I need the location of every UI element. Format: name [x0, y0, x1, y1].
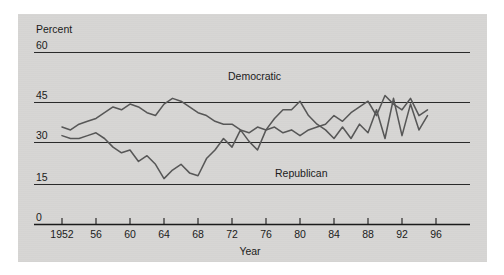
y-tick-label-45: 45 [36, 89, 48, 101]
x-tick-label-92: 92 [396, 228, 408, 240]
y-tick-label-0: 0 [36, 211, 42, 223]
y-tick-labels: 60 45 30 15 0 [36, 39, 48, 223]
x-tick-label-68: 68 [192, 228, 204, 240]
x-tick-label-84: 84 [328, 228, 340, 240]
y-axis-unit-label: Percent [36, 23, 72, 35]
x-axis-title: Year [239, 245, 261, 257]
x-tick-label-80: 80 [294, 228, 306, 240]
x-tick-label-56: 56 [90, 228, 102, 240]
y-tick-label-15: 15 [36, 171, 48, 183]
x-tick-label-1952: 1952 [50, 228, 74, 240]
x-tick-label-64: 64 [158, 228, 170, 240]
y-tick-label-60: 60 [36, 39, 48, 51]
x-tick-label-96: 96 [430, 228, 442, 240]
series-annotation-democratic: Democratic [228, 70, 281, 82]
y-tick-label-30: 30 [36, 129, 48, 141]
x-tick-label-88: 88 [362, 228, 374, 240]
series-line-democratic [62, 96, 428, 136]
x-tick-label-76: 76 [260, 228, 272, 240]
x-tick-marks [62, 218, 436, 225]
line-chart: Percent 60 45 30 15 0 [0, 0, 504, 275]
figure-container: Percent 60 45 30 15 0 [0, 0, 504, 275]
series-annotation-republican: Republican [275, 167, 328, 179]
x-tick-label-72: 72 [226, 228, 238, 240]
x-tick-labels: 1952 56 60 64 68 72 76 80 84 88 92 96 [50, 228, 442, 240]
x-tick-label-60: 60 [124, 228, 136, 240]
